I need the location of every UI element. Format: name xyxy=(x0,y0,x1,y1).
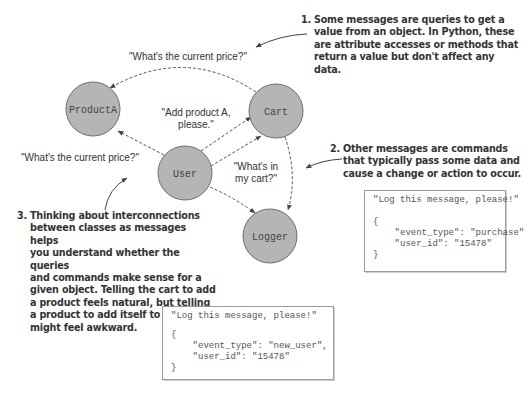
annotation-3-line: and commands make sense for a xyxy=(30,272,217,284)
code-line: } xyxy=(171,363,333,374)
pointer-annotation-1 xyxy=(256,34,307,47)
code-line: "user_id": "15478" xyxy=(373,239,505,250)
annotation-1-line: Some messages are queries to get a xyxy=(314,14,521,26)
node-user: User xyxy=(158,146,212,200)
annotation-commands: 2. Other messages are commands that typi… xyxy=(330,143,525,180)
annotation-2-line: that typically pass some data and xyxy=(343,155,525,167)
node-producta: ProductA xyxy=(66,82,120,136)
code-line: "Log this message, please!" xyxy=(171,311,333,322)
node-producta-label: ProductA xyxy=(69,105,117,116)
edge-cart-to-producta xyxy=(110,67,256,92)
node-logger-label: Logger xyxy=(252,232,288,243)
message-add-product-line2: please." xyxy=(178,119,214,130)
message-whats-in-cart-line1: "What's in xyxy=(234,161,278,172)
log-message-new-user-box: "Log this message, please!" { "event_typ… xyxy=(162,306,334,380)
annotation-3-line: you understand whether the queries xyxy=(30,247,217,272)
code-line: "event_type": "purchase", xyxy=(373,228,505,239)
annotation-1-number: 1. xyxy=(301,14,311,26)
code-line: { xyxy=(373,217,505,228)
node-user-label: User xyxy=(173,169,197,180)
annotation-1-line: value from an object. In Python, these xyxy=(314,26,521,38)
node-logger: Logger xyxy=(243,209,297,263)
message-whats-in-cart-line2: my cart?" xyxy=(235,173,277,184)
code-line: } xyxy=(373,250,505,261)
pointer-annotation-3 xyxy=(105,178,127,210)
annotation-2-line: Other messages are commands xyxy=(343,143,525,155)
code-line xyxy=(373,206,505,217)
annotation-1-line: are attribute accesses or methods that xyxy=(314,39,521,51)
message-user-to-producta-price: "What's the current price?" xyxy=(21,152,139,163)
code-line: "event_type": "new_user", xyxy=(171,341,333,352)
annotation-3-line: between classes as messages helps xyxy=(30,222,217,247)
code-line: "Log this message, please!" xyxy=(373,195,505,206)
message-add-product-line1: "Add product A, xyxy=(161,107,230,118)
message-cart-to-producta-price: "What's the current price?" xyxy=(129,51,247,62)
node-cart: Cart xyxy=(249,84,303,138)
code-line: { xyxy=(171,330,333,341)
node-cart-label: Cart xyxy=(264,107,288,118)
annotation-3-number: 3. xyxy=(17,210,27,222)
log-message-purchase-box: "Log this message, please!" { "event_typ… xyxy=(364,190,506,272)
annotation-2-line: cause a change or action to occur. xyxy=(343,168,525,180)
annotation-3-line: given object. Telling the cart to add xyxy=(30,284,217,296)
annotation-1-line: return a value but don't affect any data… xyxy=(314,51,521,76)
annotation-3-line: Thinking about interconnections xyxy=(30,210,217,222)
annotation-2-number: 2. xyxy=(330,143,340,155)
edge-cart-to-logger xyxy=(285,137,292,210)
annotation-queries: 1. Some messages are queries to get a va… xyxy=(301,14,521,76)
code-line xyxy=(171,322,333,330)
code-line: "user_id": "15478" xyxy=(171,352,333,363)
object-messages-diagram: ProductA Cart User Logger "What's the cu… xyxy=(0,0,525,401)
